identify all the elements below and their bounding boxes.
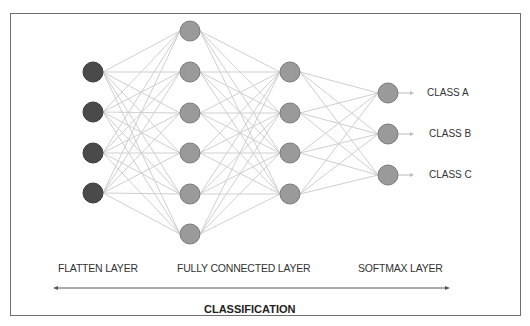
connection-edge [103,193,180,234]
flatten-node [83,102,103,122]
classification-arrow [53,286,450,290]
connection-edge [200,113,280,234]
softmax-node [378,165,398,185]
fully-connected-layer-label: FULLY CONNECTED LAYER [177,262,311,274]
hidden-node [180,62,200,82]
hidden-node [280,103,300,123]
neural-network-diagram [0,0,530,326]
flatten-node [83,62,103,82]
connection-edge [103,193,180,194]
connection-edge [103,31,180,153]
connection-edge [200,31,280,72]
hidden-node [280,184,300,204]
flatten-layer-label: FLATTEN LAYER [58,262,138,274]
hidden-node [180,143,200,163]
hidden-node [280,143,300,163]
connection-edge [300,72,378,93]
connection-edge [300,93,378,113]
classification-title: CLASSIFICATION [204,303,295,315]
softmax-layer-label: SOFTMAX LAYER [358,262,443,274]
connections [103,31,378,234]
class-a-label: CLASS A [427,87,469,98]
hidden-node [280,62,300,82]
flatten-node [83,183,103,203]
hidden-node [180,224,200,244]
output-arrows [398,91,414,177]
class-c-label: CLASS C [429,169,472,180]
softmax-node [378,83,398,103]
hidden-node [180,184,200,204]
hidden-node [180,103,200,123]
softmax-node [378,124,398,144]
hidden-node [180,21,200,41]
flatten-node [83,143,103,163]
connection-edge [200,194,280,234]
class-b-label: CLASS B [429,128,471,139]
connection-edge [103,31,180,72]
